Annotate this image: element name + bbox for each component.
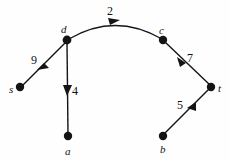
edge-b-t (164, 89, 209, 134)
edge-d-a (63, 42, 72, 134)
node-c[interactable] (159, 36, 167, 44)
node-label-c: c (159, 25, 164, 36)
edge-line-b-t (164, 89, 209, 134)
edge-line-d-c (69, 26, 162, 40)
graph-figure: s d c t a b 9 2 4 7 5 (0, 0, 229, 161)
edge-weight-d-c: 2 (107, 5, 113, 17)
edge-d-c (69, 18, 162, 39)
node-a[interactable] (64, 132, 72, 140)
node-label-d: d (61, 24, 67, 35)
node-t[interactable] (207, 83, 215, 91)
graph-canvas (0, 0, 229, 161)
edge-weight-s-d: 9 (31, 54, 37, 66)
arrowhead-d-a (63, 85, 72, 96)
edge-s-d (22, 42, 66, 86)
arrowhead-d-c (108, 18, 120, 25)
edge-weight-b-t: 5 (177, 99, 183, 111)
arrowhead-s-d (37, 63, 49, 70)
node-label-s: s (9, 84, 13, 95)
node-label-t: t (218, 83, 221, 94)
node-label-a: a (65, 146, 71, 157)
node-s[interactable] (16, 83, 24, 91)
node-label-b: b (160, 144, 166, 155)
edge-weight-c-t: 7 (187, 52, 193, 64)
node-b[interactable] (159, 132, 167, 140)
edge-weight-d-a: 4 (72, 85, 78, 97)
node-d[interactable] (63, 36, 72, 45)
